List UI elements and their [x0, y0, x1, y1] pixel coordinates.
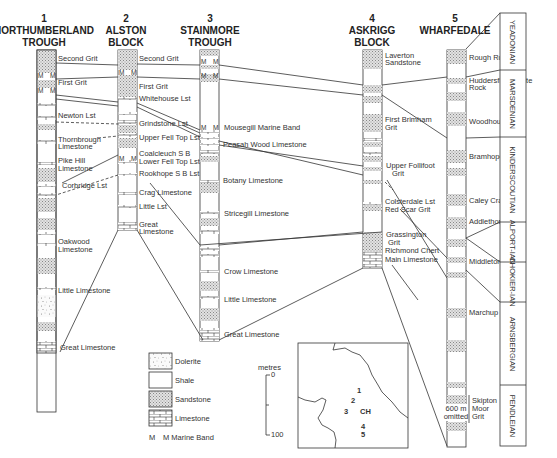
limestone-bed	[118, 192, 137, 195]
sandstone-bed	[447, 239, 466, 247]
limestone-bed	[200, 211, 219, 214]
strat-column-2	[118, 50, 137, 230]
limestone-bed	[200, 270, 219, 273]
sandstone-bed	[447, 382, 466, 388]
limestone-bed	[200, 137, 219, 140]
limestone-bed	[118, 97, 137, 100]
bed-label: Grit	[472, 412, 485, 421]
sandstone-bed	[363, 180, 382, 184]
bed-label: Grit	[392, 169, 405, 178]
limestone-bed	[37, 140, 56, 144]
correlation-diagram: 1 NORTHUMBERLAND TROUGH 2 ALSTON BLOCK 3…	[0, 0, 557, 458]
map-label: 1	[357, 386, 361, 395]
bed-label: Great Limestone	[60, 343, 115, 352]
stage-label-kinderscoutian: KINDERSCOUTIAN	[508, 146, 517, 213]
bed-label: First Grit	[58, 78, 88, 87]
limestone-bed	[200, 254, 219, 257]
bed-label: Crow Limestone	[224, 267, 278, 276]
column-header-4: 4 ASKRIGG BLOCK	[349, 13, 396, 48]
sandstone-bed	[363, 114, 382, 132]
bed-label: Limestone	[58, 164, 93, 173]
bed-label: Crag Limestone	[139, 188, 192, 197]
svg-text:M: M	[38, 72, 43, 79]
sandstone-bed	[37, 50, 56, 73]
limestone-bed	[37, 184, 56, 187]
limestone-bed	[200, 247, 219, 251]
legend-swatch-limestone	[149, 410, 172, 426]
strat-column-3	[200, 50, 219, 341]
legend-label: Dolerite	[175, 357, 201, 366]
svg-text:M: M	[38, 87, 43, 94]
limestone-bed	[363, 152, 382, 155]
bed-label: Limestone	[58, 245, 93, 254]
column-header-2: 2 ALSTON BLOCK	[106, 13, 147, 48]
sandstone-bed	[118, 138, 137, 148]
sandstone-bed	[200, 156, 219, 162]
bed-label: Stricegill Limestone	[224, 209, 289, 218]
stage-label-yeadonian: YEADONIAN	[508, 20, 517, 64]
sandstone-bed	[118, 50, 137, 70]
sandstone-bed	[118, 125, 137, 133]
svg-text:M: M	[50, 72, 55, 79]
bed-label: Limestone	[139, 227, 174, 236]
bed-label: Rookhope S B Lst	[139, 169, 200, 178]
limestone-bed	[37, 116, 56, 120]
limestone-bed	[37, 232, 56, 235]
column-header-5: 5 WHARFEDALE	[419, 13, 490, 36]
stage-label-marsdenian: MARSDENIAN	[508, 79, 517, 129]
sandstone-bed	[447, 194, 466, 206]
stage-label-chokierian: CHOKIER-IAN	[508, 257, 517, 306]
stage-label-pendleian: PENDLEIAN	[508, 395, 517, 438]
bed-label: Grindstone Lst	[139, 119, 189, 128]
bed-label: Main Limestone	[385, 255, 438, 264]
sandstone-bed	[447, 78, 466, 84]
sandstone-bed	[200, 281, 219, 291]
column-name: BLOCK	[108, 37, 144, 48]
svg-text:M: M	[213, 124, 218, 131]
strat-column-1	[37, 50, 56, 412]
sandstone-bed	[363, 50, 382, 69]
sandstone-bed	[363, 96, 382, 103]
sandstone-bed	[118, 75, 137, 97]
limestone-bed	[37, 103, 56, 106]
sandstone-bed	[363, 232, 382, 252]
dolerite-bed	[37, 295, 56, 317]
bed-label: Upper Fell Top Lst	[139, 133, 201, 142]
svg-text:M: M	[201, 58, 206, 65]
sandstone-bed	[447, 112, 466, 126]
sandstone-bed	[447, 150, 466, 163]
legend-label: Limestone	[175, 414, 210, 423]
sandstone-bed	[200, 183, 219, 193]
scale-top: 0	[271, 370, 275, 379]
sandstone-bed	[200, 308, 219, 321]
bed-label: Whitehouse Lst	[139, 94, 192, 103]
bed-label: Lower Fell Top Lst	[139, 157, 201, 166]
scale-bottom: 100	[271, 430, 284, 439]
column-number: 4	[369, 13, 375, 24]
sandstone-bed	[363, 142, 382, 147]
column-name: NORTHUMBERLAND	[0, 25, 94, 36]
legend-marine-band-label: M Marine Band	[163, 433, 214, 442]
sandstone-bed	[447, 272, 466, 278]
limestone-bed	[363, 252, 382, 268]
column-number: 1	[41, 13, 47, 24]
bed-label: Grit	[385, 123, 398, 132]
bed-label: Little Limestone	[58, 286, 111, 295]
sandstone-bed	[37, 198, 56, 212]
svg-text:M: M	[213, 72, 218, 79]
legend-label: Sandstone	[175, 395, 211, 404]
bed-label: Botany Limestone	[223, 176, 283, 185]
limestone-bed	[37, 193, 56, 196]
column-header-3: 3 STAINMORE TROUGH	[180, 13, 240, 48]
sandstone-bed	[447, 50, 466, 64]
map-label: 5	[361, 430, 365, 439]
legend: Dolerite Shale Sandstone Limestone M M M…	[149, 353, 214, 442]
bed-label: Second Grit	[58, 54, 99, 63]
column-number: 2	[123, 13, 129, 24]
bed-label: Limestone	[58, 142, 93, 151]
bed-label: Second Grit	[139, 54, 180, 63]
limestone-bed	[200, 230, 219, 234]
limestone-bed	[200, 143, 219, 146]
column-name: BLOCK	[354, 37, 390, 48]
sandstone-bed	[447, 422, 466, 431]
